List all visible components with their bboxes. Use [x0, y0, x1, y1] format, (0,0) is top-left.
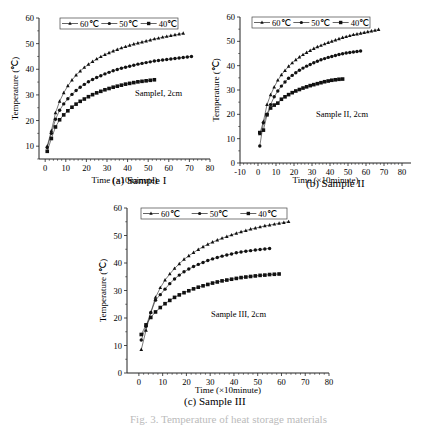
circle-marker	[173, 57, 176, 60]
circle-marker	[258, 144, 261, 147]
chart-a: 01020304050607080102030405060Time (×10mi…	[10, 13, 214, 187]
circle-marker	[301, 66, 304, 69]
circle-marker	[140, 338, 143, 341]
square-marker	[258, 274, 262, 278]
y-tick-label: 20	[114, 313, 123, 323]
legend-label: 50℃	[210, 209, 229, 219]
square-marker	[323, 80, 327, 84]
square-marker	[290, 91, 294, 95]
series-50c	[46, 55, 194, 149]
square-marker	[308, 84, 312, 88]
triangle-marker	[377, 28, 381, 31]
square-marker	[154, 310, 158, 314]
square-marker	[326, 79, 330, 83]
y-axis-label: Temperature (℃)	[211, 58, 221, 122]
circle-marker	[120, 67, 123, 70]
square-marker	[269, 106, 273, 110]
square-marker	[120, 83, 124, 87]
square-marker	[287, 93, 291, 97]
square-marker	[339, 21, 342, 24]
chart-c: 010203040506070800102030405060Time (×10m…	[98, 203, 333, 408]
circle-marker	[272, 95, 275, 98]
y-tick-label: 10	[114, 341, 123, 351]
square-marker	[192, 287, 196, 291]
square-marker	[220, 279, 224, 283]
circle-marker	[83, 83, 86, 86]
circle-marker	[187, 267, 190, 270]
triangle-marker	[95, 57, 99, 60]
circle-marker	[323, 57, 326, 60]
y-tick-label: 20	[26, 116, 35, 126]
circle-marker	[258, 248, 261, 251]
square-marker	[153, 78, 157, 82]
subplot-caption: (b) Sample II	[306, 177, 365, 190]
square-marker	[305, 85, 309, 89]
x-tick-label: 20	[82, 163, 91, 173]
circle-marker	[144, 61, 147, 64]
square-marker	[262, 128, 266, 132]
circle-marker	[337, 53, 340, 56]
circle-marker	[165, 58, 168, 61]
square-marker	[173, 296, 177, 300]
triangle-marker	[54, 111, 58, 114]
square-marker	[149, 316, 153, 320]
subplot-caption: (c) Sample III	[184, 395, 246, 408]
square-marker	[341, 77, 345, 81]
square-marker	[54, 125, 58, 129]
square-marker	[280, 97, 284, 101]
triangle-marker	[294, 58, 298, 61]
square-marker	[294, 89, 298, 93]
series-40c	[139, 272, 280, 336]
square-marker	[136, 80, 140, 84]
square-marker	[330, 78, 334, 82]
circle-marker	[225, 253, 228, 256]
square-marker	[216, 280, 220, 284]
square-marker	[124, 82, 128, 86]
triangle-marker	[58, 99, 62, 102]
circle-marker	[124, 66, 127, 69]
square-marker	[111, 85, 115, 89]
circle-marker	[149, 60, 152, 63]
legend: 60℃50℃40℃	[60, 18, 178, 29]
circle-marker	[254, 248, 257, 251]
circle-marker	[235, 251, 238, 254]
series-50c	[140, 247, 272, 342]
circle-marker	[58, 109, 61, 112]
triangle-marker	[290, 61, 294, 64]
triangle-marker	[187, 254, 191, 257]
triangle-marker	[298, 55, 302, 58]
circle-marker	[355, 50, 358, 53]
sample-annotation: SampleI, 2cm	[135, 88, 183, 98]
y-tick-label: 30	[114, 286, 123, 296]
legend-label: 40℃	[258, 209, 277, 219]
subplot-caption: (a) Sample I	[112, 174, 167, 187]
circle-marker	[290, 74, 293, 77]
y-tick-label: 30	[227, 85, 236, 95]
square-marker	[139, 333, 143, 337]
circle-marker	[177, 56, 180, 59]
square-marker	[272, 103, 276, 107]
square-marker	[312, 83, 316, 87]
y-tick-label: 30	[26, 90, 35, 100]
circle-marker	[178, 273, 181, 276]
triangle-marker	[78, 69, 82, 72]
square-marker	[163, 302, 167, 306]
series-50c	[258, 49, 362, 147]
square-marker	[201, 284, 205, 288]
circle-marker	[190, 55, 193, 58]
x-tick-label: 10	[272, 167, 281, 177]
square-marker	[276, 101, 280, 105]
circle-marker	[159, 293, 162, 296]
series-line	[141, 274, 279, 335]
square-marker	[258, 131, 262, 135]
square-marker	[225, 278, 229, 282]
circle-marker	[341, 52, 344, 55]
figure-canvas: 01020304050607080102030405060Time (×10mi…	[0, 0, 425, 427]
circle-marker	[298, 69, 301, 72]
circle-marker	[99, 74, 102, 77]
circle-marker	[344, 51, 347, 54]
square-marker	[230, 277, 234, 281]
square-marker	[91, 93, 95, 97]
square-marker	[62, 113, 66, 117]
square-marker	[196, 285, 200, 289]
